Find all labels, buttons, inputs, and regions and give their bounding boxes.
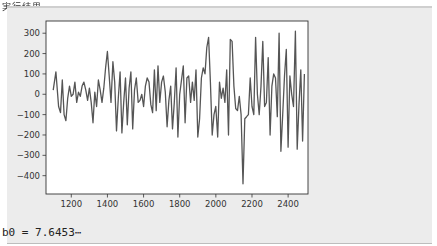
x-axis: 1200140016001800200022002400 <box>60 194 298 209</box>
x-tick-label: 1200 <box>60 199 82 209</box>
y-tick-label: 200 <box>24 49 40 59</box>
y-tick-label: 0 <box>35 89 40 99</box>
y-tick-label: 100 <box>24 69 40 79</box>
y-axis: 3002001000−100−200−300−400 <box>17 28 46 180</box>
x-tick-label: 2000 <box>205 199 227 209</box>
y-tick-label: −200 <box>17 130 40 140</box>
x-tick-label: 1800 <box>169 199 191 209</box>
y-tick-label: −300 <box>17 150 40 160</box>
x-tick-label: 2400 <box>277 199 299 209</box>
y-tick-label: −400 <box>17 171 40 181</box>
x-tick-label: 1400 <box>97 199 119 209</box>
line-chart: 3002001000−100−200−300−400 1200140016001… <box>7 8 432 218</box>
y-tick-label: 300 <box>24 28 40 38</box>
output-text: b0 = 7.6453⋯ <box>2 226 81 239</box>
output-panel: 3002001000−100−200−300−400 1200140016001… <box>7 6 432 244</box>
y-tick-label: −100 <box>17 110 40 120</box>
x-tick-label: 2200 <box>241 199 263 209</box>
x-tick-label: 1600 <box>133 199 155 209</box>
